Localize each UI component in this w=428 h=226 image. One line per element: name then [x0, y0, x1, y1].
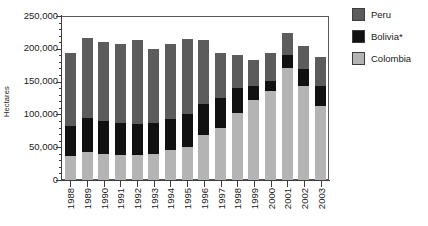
- bar-segment-bolivia-1993: [148, 123, 159, 154]
- x-axis-label-1989: 1989: [82, 188, 93, 209]
- bar-segment-peru-1993: [148, 49, 159, 123]
- x-tick-1996: [204, 181, 205, 187]
- bar-segment-peru-2000: [265, 53, 276, 81]
- bar-series-container: [62, 16, 329, 180]
- x-tick-1988: [70, 181, 71, 187]
- bar-1995: [182, 39, 193, 180]
- legend-swatch-peru: [352, 8, 365, 21]
- x-axis-label-1998: 1998: [232, 188, 243, 209]
- chart-legend: PeruBolivia*Colombia: [352, 8, 428, 74]
- y-axis-label-50000: 50,000: [8, 142, 58, 152]
- bar-1997: [215, 53, 226, 180]
- bar-segment-peru-1992: [132, 40, 143, 124]
- x-axis-label-1999: 1999: [249, 188, 260, 209]
- x-tick-2002: [304, 181, 305, 187]
- x-tick-1991: [120, 181, 121, 187]
- bar-1992: [132, 40, 143, 180]
- bar-1990: [98, 42, 109, 180]
- x-tick-2000: [271, 181, 272, 187]
- x-axis-label-1994: 1994: [165, 188, 176, 209]
- x-tick-1989: [87, 181, 88, 187]
- bar-segment-bolivia-1990: [98, 121, 109, 154]
- bar-segment-peru-1996: [198, 40, 209, 104]
- bar-segment-peru-1995: [182, 39, 193, 114]
- legend-swatch-colombia: [352, 52, 365, 65]
- bar-2001: [282, 33, 293, 180]
- x-tick-1997: [221, 181, 222, 187]
- bar-segment-peru-1994: [165, 44, 176, 119]
- x-axis-label-1990: 1990: [99, 188, 110, 209]
- bar-segment-bolivia-1995: [182, 114, 193, 146]
- bar-segment-colombia-1994: [165, 150, 176, 180]
- x-tick-2003: [321, 181, 322, 187]
- x-axis-tick-labels: 1988198919901991199219931994199519961997…: [62, 188, 329, 226]
- x-axis-label-2003: 2003: [316, 188, 327, 209]
- bar-segment-peru-2001: [282, 33, 293, 55]
- x-axis-label-1992: 1992: [132, 188, 143, 209]
- x-axis-label-1995: 1995: [182, 188, 193, 209]
- bar-segment-colombia-1997: [215, 128, 226, 180]
- y-axis-label-150000: 150,000: [8, 76, 58, 86]
- y-axis-label-250000: 250,000: [8, 11, 58, 21]
- bar-segment-colombia-1999: [248, 100, 259, 180]
- bar-1988: [65, 53, 76, 180]
- y-axis-tick-labels: 050,000100,000150,000200,000250,000: [8, 0, 58, 226]
- y-axis-label-200000: 200,000: [8, 43, 58, 53]
- legend-item-peru[interactable]: Peru: [352, 8, 428, 21]
- bar-segment-bolivia-1997: [215, 98, 226, 128]
- bar-1998: [232, 55, 243, 180]
- bar-segment-peru-2003: [315, 57, 326, 86]
- bar-segment-peru-1989: [82, 38, 93, 118]
- legend-label: Colombia: [371, 53, 411, 64]
- bar-2000: [265, 53, 276, 180]
- legend-swatch-bolivia: [352, 30, 365, 43]
- y-axis-label-0: 0: [8, 175, 58, 185]
- bar-segment-bolivia-2001: [282, 55, 293, 68]
- bar-segment-colombia-1988: [65, 156, 76, 180]
- x-axis-label-2000: 2000: [266, 188, 277, 209]
- bar-segment-bolivia-2003: [315, 86, 326, 106]
- bar-segment-colombia-1992: [132, 155, 143, 180]
- bar-2002: [298, 46, 309, 180]
- bar-segment-peru-2002: [298, 46, 309, 70]
- bar-segment-bolivia-1999: [248, 86, 259, 100]
- bar-segment-peru-1998: [232, 55, 243, 88]
- x-axis-label-2001: 2001: [282, 188, 293, 209]
- x-axis-label-1996: 1996: [199, 188, 210, 209]
- x-axis-ticks: [62, 181, 329, 188]
- bar-segment-colombia-1991: [115, 155, 126, 180]
- bar-segment-bolivia-1989: [82, 118, 93, 152]
- bar-segment-peru-1990: [98, 42, 109, 121]
- bar-1989: [82, 38, 93, 180]
- bar-segment-bolivia-1996: [198, 104, 209, 135]
- x-tick-1998: [237, 181, 238, 187]
- bar-1994: [165, 44, 176, 180]
- x-axis-label-1993: 1993: [149, 188, 160, 209]
- x-axis-label-1997: 1997: [216, 188, 227, 209]
- bar-segment-bolivia-1988: [65, 126, 76, 156]
- x-tick-1995: [187, 181, 188, 187]
- bar-segment-bolivia-1994: [165, 119, 176, 150]
- bar-segment-bolivia-1998: [232, 88, 243, 113]
- bar-segment-colombia-2000: [265, 91, 276, 180]
- bar-segment-peru-1988: [65, 53, 76, 126]
- legend-label: Bolivia*: [371, 31, 403, 42]
- x-tick-1994: [170, 181, 171, 187]
- bar-segment-colombia-1989: [82, 152, 93, 180]
- bar-segment-bolivia-1992: [132, 124, 143, 155]
- bar-1999: [248, 60, 259, 180]
- legend-item-bolivia[interactable]: Bolivia*: [352, 30, 428, 43]
- bar-segment-colombia-1990: [98, 154, 109, 180]
- bar-segment-colombia-1996: [198, 135, 209, 180]
- bar-1993: [148, 49, 159, 180]
- bar-segment-peru-1991: [115, 44, 126, 123]
- bar-segment-peru-1999: [248, 60, 259, 86]
- bar-segment-peru-1997: [215, 53, 226, 98]
- bar-segment-colombia-2001: [282, 68, 293, 180]
- bar-segment-bolivia-2000: [265, 81, 276, 91]
- legend-item-colombia[interactable]: Colombia: [352, 52, 428, 65]
- bar-segment-bolivia-2002: [298, 69, 309, 85]
- x-tick-1992: [137, 181, 138, 187]
- x-tick-1993: [154, 181, 155, 187]
- bar-segment-colombia-1993: [148, 154, 159, 180]
